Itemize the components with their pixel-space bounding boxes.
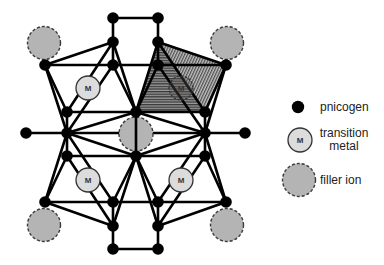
- pnicogen-atom: [220, 196, 232, 208]
- bond-line: [205, 133, 226, 202]
- legend-label-metal: metal: [329, 139, 358, 153]
- pnicogen-atom: [152, 196, 164, 208]
- transition-metal: M: [76, 168, 100, 192]
- transition-metal: M: [169, 168, 193, 192]
- pnicogen-atom: [107, 36, 119, 48]
- legend-label-pnicogen: pnicogen: [320, 100, 369, 114]
- filler-ion: [211, 209, 244, 242]
- pnicogen-atom: [39, 196, 51, 208]
- legend: pnicogen M transition metal filler ion: [283, 100, 369, 197]
- pnicogen-atom: [107, 12, 119, 24]
- filler-ion-circle-icon: [283, 164, 316, 197]
- legend-metal-symbol: M: [297, 136, 304, 145]
- transition-metal: M: [76, 76, 100, 100]
- pnicogen-atom: [152, 12, 164, 24]
- pnicogen-atom: [239, 127, 251, 139]
- transition-metal-highlighted: M: [169, 76, 193, 100]
- pnicogen-atom: [61, 150, 73, 162]
- pnicogen-atom: [61, 127, 73, 139]
- pnicogen-atom: [107, 243, 119, 255]
- bond-line: [113, 156, 136, 226]
- pnicogen-dot-icon: [292, 101, 304, 113]
- pnicogen-atom: [130, 150, 142, 162]
- filler-ion: [28, 27, 61, 60]
- legend-label-transition: transition: [320, 126, 369, 140]
- transition-metal-label: M: [178, 176, 185, 185]
- transition-metal-label: M: [178, 84, 185, 93]
- pnicogen-atom: [220, 59, 232, 71]
- pnicogen-atom: [152, 59, 164, 71]
- pnicogen-atom: [199, 150, 211, 162]
- pnicogen-atom: [61, 106, 73, 118]
- pnicogen-atom: [199, 106, 211, 118]
- legend-item-filler-ion: filler ion: [283, 164, 362, 197]
- bond-line: [136, 156, 158, 226]
- pnicogen-atom: [130, 106, 142, 118]
- legend-item-pnicogen: pnicogen: [292, 100, 369, 114]
- legend-label-filler-ion: filler ion: [320, 173, 361, 187]
- filler-ion: [28, 209, 61, 242]
- pnicogen-atom: [152, 243, 164, 255]
- legend-item-transition-metal: M transition metal: [288, 126, 368, 153]
- bond-line: [45, 65, 67, 133]
- filler-ion: [211, 27, 244, 60]
- transition-metal-label: M: [85, 176, 92, 185]
- bond-line: [45, 133, 67, 202]
- pnicogen-atom: [20, 127, 32, 139]
- pnicogen-atom: [39, 59, 51, 71]
- pnicogen-atom: [107, 59, 119, 71]
- bond-line: [113, 42, 136, 112]
- pnicogen-atom: [152, 36, 164, 48]
- pnicogen-atom: [152, 220, 164, 232]
- crystal-structure-diagram: MMMM pnicogen M transition metal filler …: [0, 0, 384, 265]
- pnicogen-atom: [107, 220, 119, 232]
- pnicogen-atom: [199, 127, 211, 139]
- transition-metal-label: M: [85, 84, 92, 93]
- pnicogen-atom: [107, 196, 119, 208]
- bond-line: [113, 65, 136, 112]
